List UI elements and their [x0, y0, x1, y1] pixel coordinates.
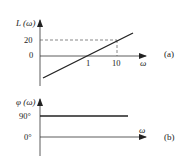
- panel-label-a: (a): [164, 49, 174, 59]
- y-tick-0: 0°: [24, 132, 32, 142]
- phase-plot: φ (ω) 90° 0° ω (b): [16, 97, 175, 156]
- y-tick-0: 0: [29, 50, 33, 60]
- magnitude-plot: L (ω) 20 0 1 10 ω (a): [15, 18, 174, 86]
- bode-diagram: L (ω) 20 0 1 10 ω (a) φ (ω) 90° 0° ω (b): [0, 0, 186, 159]
- x-axis-label: ω: [139, 125, 145, 135]
- x-tick-10: 10: [112, 58, 121, 68]
- x-axis-label: ω: [140, 58, 146, 68]
- x-tick-1: 1: [86, 58, 90, 68]
- y-axis-label: L (ω): [15, 18, 35, 28]
- panel-label-b: (b): [164, 132, 175, 142]
- y-axis-label: φ (ω): [16, 97, 36, 107]
- y-tick-20: 20: [24, 35, 33, 45]
- y-tick-90: 90°: [19, 111, 31, 121]
